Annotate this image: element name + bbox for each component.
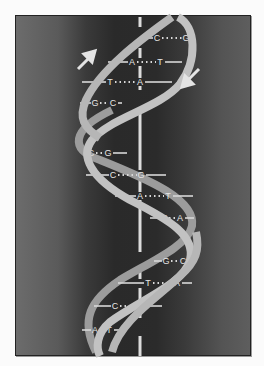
strand-direction-up-arrow [78, 51, 95, 69]
base-left: T [145, 278, 151, 288]
base-left: G [91, 98, 98, 108]
base-left: A [129, 57, 135, 67]
base-left: T [107, 77, 113, 87]
base-right: A [137, 77, 143, 87]
base-left: G [162, 256, 169, 266]
base-left: C [154, 33, 161, 43]
base-right: G [104, 148, 111, 158]
base-right: A [177, 213, 183, 223]
base-right: T [165, 191, 171, 201]
dna-double-helix: CGATTAGCCGCGATTAGCTACGAT [0, 0, 264, 366]
base-right: G [137, 170, 144, 180]
base-left: C [110, 170, 117, 180]
base-left: C [112, 301, 119, 311]
base-right: T [157, 57, 163, 67]
base-right: C [110, 98, 117, 108]
